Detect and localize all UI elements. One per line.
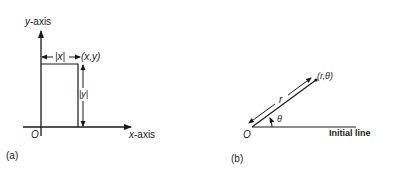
y-axis-label: y-axis [25,17,51,27]
theta-arc-arrow [270,118,272,127]
x-axis-label: x-axis [129,130,155,140]
point-xy-label: (x,y) [81,52,100,62]
y-axis-label-suffix: -axis [30,16,51,27]
radius-line [252,80,316,127]
panel-b-label: (b) [231,154,243,164]
theta-label: θ [277,114,282,124]
x-axis-label-suffix: -axis [134,129,155,140]
origin-b-label: O [243,130,251,140]
cartesian-diagram [23,31,131,136]
abs-x-label: |x| [55,52,65,62]
abs-y-label: |y| [79,89,88,99]
origin-a-label: O [31,130,39,140]
panel-a-label: (a) [6,151,18,161]
polar-diagram [249,78,356,127]
radius-label: r [279,95,282,105]
point-r-theta-label: (r,θ) [317,71,333,81]
coordinate-rectangle [41,64,78,127]
initial-line-label: Initial line [329,128,371,138]
diagram-canvas [0,0,393,170]
